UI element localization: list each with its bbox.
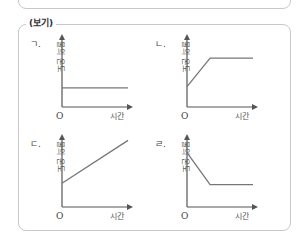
graph-ㄱ: ㄱ.물의 온도O시간 (30, 37, 130, 121)
graph-ㄷ: ㄷ.물의 온도O시간 (30, 137, 130, 221)
x-axis-label: 시간 (235, 211, 250, 221)
x-axis-label: 시간 (110, 211, 125, 221)
y-axis-label: 물의 온도 (181, 41, 191, 72)
graph-ㄹ: ㄹ.물의 온도O시간 (155, 137, 255, 221)
x-axis-label: 시간 (235, 111, 250, 121)
temperature-curve (187, 58, 253, 87)
y-axis-label: 물의 온도 (56, 41, 66, 72)
temperature-curve (187, 153, 253, 185)
graph-item-label: ㄱ. (30, 39, 41, 49)
graph-item-label: ㄴ. (155, 39, 166, 49)
origin-label: O (56, 111, 63, 121)
graph-ㄴ: ㄴ.물의 온도O시간 (155, 37, 255, 121)
origin-label: O (56, 211, 63, 221)
origin-label: O (181, 111, 188, 121)
graph-item-label: ㄷ. (30, 139, 41, 149)
graphs-canvas: ㄱ.물의 온도O시간ㄴ.물의 온도O시간ㄷ.물의 온도O시간ㄹ.물의 온도O시간 (0, 0, 305, 243)
graph-item-label: ㄹ. (155, 139, 166, 149)
temperature-curve (62, 140, 128, 183)
origin-label: O (181, 211, 188, 221)
x-axis-label: 시간 (110, 111, 125, 121)
y-axis-label: 물의 온도 (56, 141, 66, 172)
